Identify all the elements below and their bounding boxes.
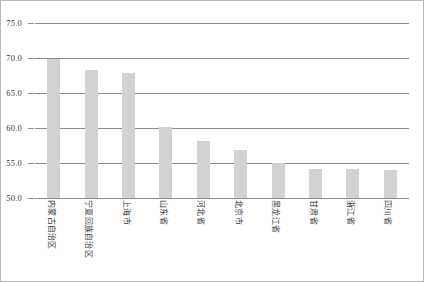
y-tick-label: 70.0 (6, 54, 22, 63)
bar (309, 169, 322, 198)
x-axis-labels: 内蒙古自治区宁夏回族自治区上海市山东省河北省北京市黑龙江省甘肃省浙江省四川省 (35, 200, 409, 280)
bar (122, 73, 135, 198)
x-tick-label: 山东省 (159, 200, 170, 225)
x-tick-label: 宁夏回族自治区 (84, 200, 95, 258)
y-tick-mark (28, 23, 34, 24)
x-tick-label: 黑龙江省 (271, 200, 282, 233)
y-tick-mark (28, 93, 34, 94)
x-tick-label: 河北省 (196, 200, 207, 225)
y-tick-label: 55.0 (6, 159, 22, 168)
x-tick-label: 内蒙古自治区 (47, 200, 58, 250)
gridline (35, 198, 409, 199)
bar (384, 170, 397, 198)
bar (234, 150, 247, 198)
x-tick-label: 上海市 (122, 200, 133, 225)
plot-area (35, 23, 409, 198)
x-tick-label: 四川省 (383, 200, 394, 225)
y-tick-label: 65.0 (6, 89, 22, 98)
x-tick-label: 浙江省 (346, 200, 357, 225)
y-tick-mark (28, 163, 34, 164)
y-tick-label: 50.0 (6, 194, 22, 203)
chart-figure: 75.070.065.060.055.050.0 内蒙古自治区宁夏回族自治区上海… (0, 0, 424, 282)
y-tick-mark (28, 128, 34, 129)
bars-group (35, 23, 409, 198)
bar (85, 70, 98, 198)
x-tick-label: 北京市 (234, 200, 245, 225)
bar (47, 59, 60, 198)
bar (159, 127, 172, 198)
bar (197, 141, 210, 198)
bar (346, 169, 359, 198)
y-tick-label: 75.0 (6, 19, 22, 28)
y-tick-label: 60.0 (6, 124, 22, 133)
bar (272, 163, 285, 198)
y-tick-mark (28, 198, 34, 199)
y-tick-mark (28, 58, 34, 59)
x-tick-label: 甘肃省 (309, 200, 320, 225)
